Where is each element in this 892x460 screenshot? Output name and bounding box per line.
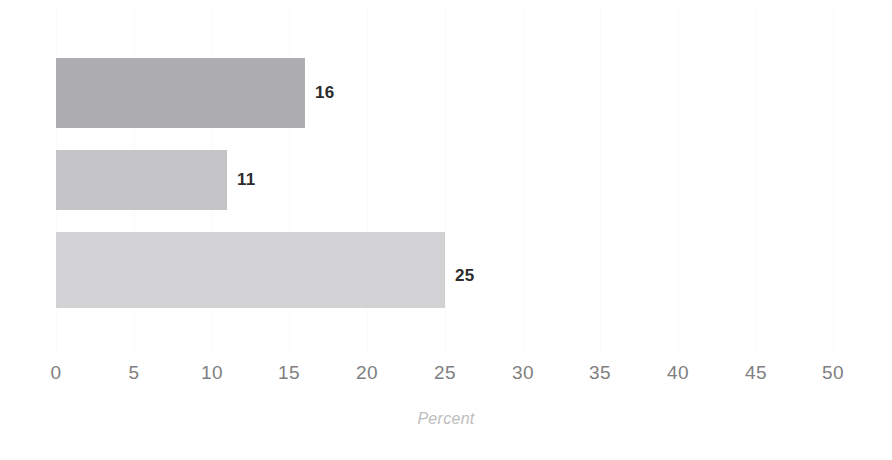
- gridline-50: [833, 8, 834, 354]
- plot-area: 16 11 25: [56, 8, 834, 354]
- bar-2-value-label: 11: [237, 170, 255, 190]
- gridline-40: [678, 8, 679, 354]
- bar-1: [56, 58, 305, 128]
- xtick-label-45: 45: [745, 362, 767, 384]
- gridline-25: [445, 8, 446, 354]
- bar-2: [56, 150, 227, 210]
- xtick-label-35: 35: [589, 362, 611, 384]
- bar-chart: 16 11 25 0 5 10 15 20 25 30 35 40 45 50 …: [0, 0, 892, 460]
- gridline-45: [756, 8, 757, 354]
- bar-3-value-label: 25: [455, 266, 474, 286]
- xtick-label-0: 0: [50, 362, 61, 384]
- xtick-label-5: 5: [128, 362, 139, 384]
- gridline-30: [523, 8, 524, 354]
- xtick-label-20: 20: [356, 362, 378, 384]
- xtick-label-50: 50: [822, 362, 844, 384]
- x-axis-title: Percent: [0, 410, 892, 428]
- gridline-35: [600, 8, 601, 354]
- xtick-label-30: 30: [512, 362, 534, 384]
- bar-3: [56, 232, 445, 308]
- xtick-label-25: 25: [434, 362, 456, 384]
- bar-1-value-label: 16: [315, 83, 334, 103]
- xtick-label-10: 10: [201, 362, 223, 384]
- xtick-label-15: 15: [278, 362, 300, 384]
- xtick-label-40: 40: [667, 362, 689, 384]
